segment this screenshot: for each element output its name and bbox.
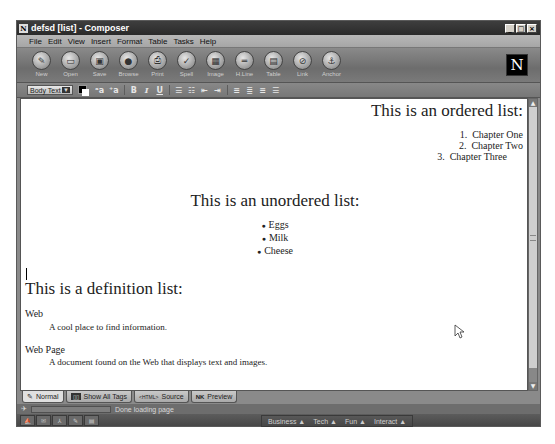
bullet-list-icon[interactable]: ☰ — [175, 86, 183, 95]
ordered-list-heading: This is an ordered list: — [371, 101, 523, 121]
unordered-list: ●Eggs ●Milk ●Cheese — [21, 219, 529, 258]
list-number: 2. — [459, 140, 467, 151]
editor-canvas[interactable]: This is an ordered list: 1. Chapter One … — [20, 98, 528, 391]
table-icon: ▤ — [264, 51, 283, 70]
new-icon: ✎ — [32, 51, 51, 70]
portal-business[interactable]: Business ▲ — [268, 418, 305, 425]
link-button[interactable]: ⊘ Link — [288, 51, 317, 77]
align-right-icon[interactable]: ≡ — [259, 86, 267, 95]
bold-button[interactable]: B — [130, 86, 138, 95]
portal-fun[interactable]: Fun ▲ — [345, 418, 366, 425]
open-icon: ▭ — [61, 51, 80, 70]
composer-icon[interactable]: ✎ — [68, 415, 83, 426]
html-icon: <HTML> — [139, 394, 158, 400]
vertical-scrollbar[interactable]: ▲ ▼ — [528, 98, 538, 391]
progress-bar — [31, 406, 111, 413]
browse-icon: ● — [119, 51, 138, 70]
list-text: Chapter Two — [471, 140, 523, 151]
scroll-track-lower[interactable] — [529, 368, 537, 382]
align-left-icon[interactable]: ≡ — [233, 86, 241, 95]
portal-interact[interactable]: Interact ▲ — [374, 418, 406, 425]
table-button[interactable]: ▤ Table — [259, 51, 288, 77]
netscape-logo[interactable]: N — [506, 54, 528, 76]
save-button[interactable]: ▣ Save — [85, 51, 114, 77]
browse-button[interactable]: ● Browse — [114, 51, 143, 77]
mail-icon[interactable]: ✉ — [36, 415, 51, 426]
menu-bar: File Edit View Insert Format Table Tasks… — [17, 35, 540, 48]
link-label: Link — [297, 71, 308, 77]
scroll-down-button[interactable]: ▼ — [529, 382, 537, 390]
image-button[interactable]: ▦ Image — [201, 51, 230, 77]
spell-icon: ✓ — [177, 51, 196, 70]
list-text: Cheese — [264, 245, 293, 256]
portal-label: Tech — [313, 418, 328, 425]
minimize-button[interactable]: _ — [505, 24, 515, 33]
menu-edit[interactable]: Edit — [48, 37, 62, 46]
tab-show-all-tags[interactable]: ▯▯ Show All Tags — [66, 391, 132, 403]
menu-view[interactable]: View — [68, 37, 85, 46]
tab-preview[interactable]: NK Preview — [191, 391, 238, 403]
close-button[interactable]: × — [527, 24, 537, 33]
separator — [227, 85, 228, 95]
hline-button[interactable]: ═ H.Line — [230, 51, 259, 77]
portal-label: Business — [268, 418, 296, 425]
address-book-icon[interactable]: ▤ — [84, 415, 99, 426]
portal-menu: Business ▲ Tech ▲ Fun ▲ Interact ▲ — [261, 415, 413, 427]
color-picker[interactable] — [78, 85, 90, 96]
navigator-icon[interactable]: ⛵ — [20, 415, 35, 426]
portal-label: Interact — [374, 418, 397, 425]
outdent-icon[interactable]: ⇤ — [201, 86, 209, 95]
portal-tech[interactable]: Tech ▲ — [313, 418, 337, 425]
menu-format[interactable]: Format — [117, 37, 142, 46]
open-button[interactable]: ▭ Open — [56, 51, 85, 77]
numbered-list-icon[interactable]: ☷ — [188, 86, 196, 95]
tab-normal[interactable]: ✎ Normal — [22, 391, 64, 403]
menu-tasks[interactable]: Tasks — [173, 37, 193, 46]
chevron-up-icon: ▲ — [359, 418, 366, 425]
status-text: Done loading page — [115, 406, 174, 413]
tab-html-source[interactable]: <HTML> Source — [134, 391, 189, 403]
paragraph-style-select[interactable]: Body Text ▼ — [27, 85, 73, 95]
print-button[interactable]: ⎙ Print — [143, 51, 172, 77]
indent-icon[interactable]: ⇥ — [214, 86, 222, 95]
font-larger-button[interactable]: ⁺a — [109, 86, 119, 95]
title-bar[interactable]: N defsd [list] - Composer _ □ × — [17, 21, 540, 35]
font-smaller-button[interactable]: ᵃa — [95, 86, 104, 95]
anchor-icon: ⚓ — [322, 51, 341, 70]
definition-description: A document found on the Web that display… — [49, 357, 267, 367]
tab-label: Preview — [207, 393, 232, 400]
edit-mode-tabs: ✎ Normal ▯▯ Show All Tags <HTML> Source … — [20, 391, 237, 403]
print-icon: ⎙ — [148, 51, 167, 70]
bullet-icon: ● — [262, 235, 266, 243]
justify-icon[interactable]: ☰ — [272, 86, 280, 95]
scroll-thumb[interactable] — [530, 235, 536, 241]
spell-button[interactable]: ✓ Spell — [172, 51, 201, 77]
composer-window: N defsd [list] - Composer _ □ × File Edi… — [16, 20, 541, 427]
chevron-up-icon: ▲ — [399, 418, 406, 425]
underline-button[interactable]: U — [156, 86, 164, 95]
tags-icon: ▯▯ — [71, 393, 81, 400]
browse-label: Browse — [118, 71, 138, 77]
list-item: 1. Chapter One — [437, 129, 523, 140]
instant-messenger-icon[interactable]: ⅄ — [52, 415, 67, 426]
list-item: 2. Chapter Two — [437, 140, 523, 151]
background-color-swatch[interactable] — [82, 89, 89, 96]
separator — [169, 85, 170, 95]
window-controls: _ □ × — [505, 24, 537, 33]
paragraph-style-value: Body Text — [30, 87, 61, 94]
align-center-icon[interactable]: ≣ — [246, 86, 254, 95]
bullet-icon: ● — [261, 222, 265, 230]
save-label: Save — [93, 71, 107, 77]
online-status-icon[interactable]: ✈ — [21, 405, 27, 413]
anchor-button[interactable]: ⚓ Anchor — [317, 51, 346, 77]
italic-button[interactable]: I — [143, 85, 151, 95]
scroll-up-button[interactable]: ▲ — [529, 99, 537, 107]
maximize-button[interactable]: □ — [516, 24, 526, 33]
menu-table[interactable]: Table — [148, 37, 167, 46]
list-text: Milk — [269, 232, 288, 243]
format-toolbar: Body Text ▼ ᵃa ⁺a B I U ☰ ☷ ⇤ ⇥ ≡ ≣ ≡ ☰ — [17, 83, 540, 98]
menu-file[interactable]: File — [29, 37, 42, 46]
menu-insert[interactable]: Insert — [91, 37, 111, 46]
new-button[interactable]: ✎ New — [27, 51, 56, 77]
menu-help[interactable]: Help — [200, 37, 216, 46]
